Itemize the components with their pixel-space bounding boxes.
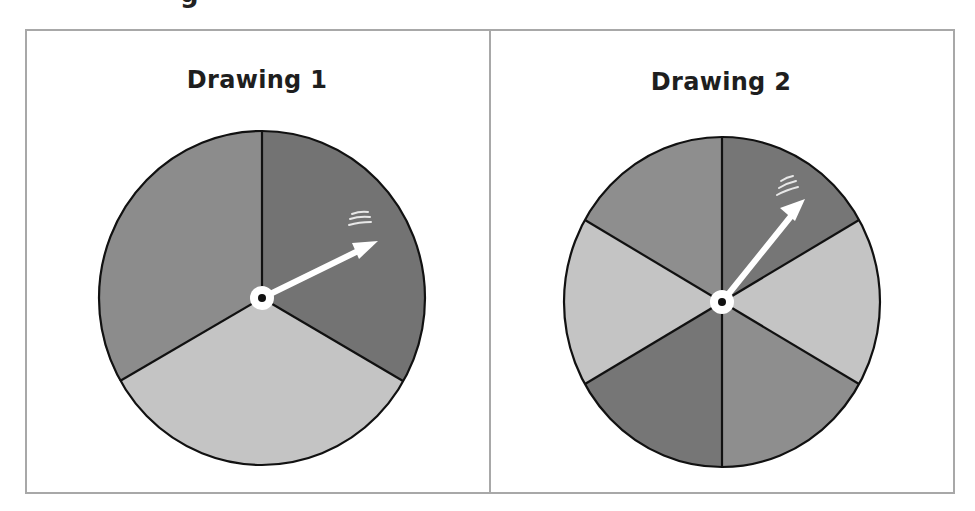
spinner-drawing-2 — [564, 137, 880, 467]
spinners-canvas — [0, 0, 975, 511]
spinner-drawing-1 — [98, 131, 425, 465]
